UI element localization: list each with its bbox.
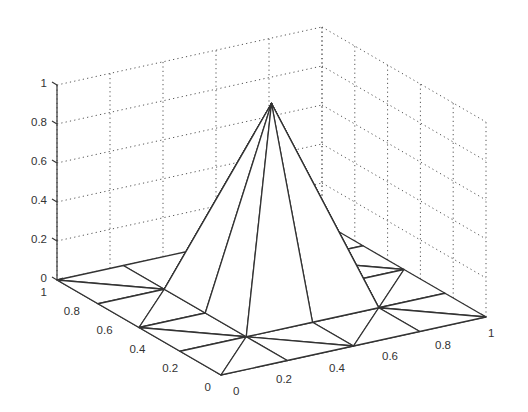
z-tick-label: 0.8 — [31, 116, 47, 128]
grid-line-z — [57, 27, 322, 85]
grid-line-z — [322, 66, 486, 161]
grid-line-z — [322, 105, 486, 200]
z-tick — [52, 121, 57, 124]
x-tick-label: 0.6 — [382, 350, 398, 362]
grid-line-z — [322, 27, 486, 122]
grid-line-z — [322, 144, 486, 239]
triangular-mesh — [57, 104, 486, 376]
y-tick-label: 0 — [205, 381, 211, 393]
surface-plot: 0000.20.20.20.40.40.40.60.60.60.80.80.81… — [0, 0, 528, 412]
z-tick-label: 0 — [41, 272, 47, 284]
z-tick-label: 1 — [41, 77, 47, 89]
z-tick — [52, 277, 57, 280]
x-tick-label: 0 — [233, 385, 239, 397]
z-tick — [52, 199, 57, 202]
x-tick-label: 0.4 — [329, 362, 346, 374]
x-tick-label: 1 — [488, 327, 494, 339]
z-tick-label: 0.6 — [31, 155, 47, 167]
z-tick-label: 0.4 — [31, 194, 48, 206]
y-tick-label: 0.8 — [64, 305, 80, 317]
z-tick — [52, 238, 57, 241]
y-tick-label: 0.6 — [97, 324, 113, 336]
y-tick-label: 1 — [41, 286, 47, 298]
grid-line-z — [57, 66, 322, 124]
y-tick-label: 0.4 — [129, 343, 146, 355]
z-tick — [52, 160, 57, 163]
z-tick — [52, 82, 57, 85]
y-tick-label: 0.2 — [162, 362, 178, 374]
x-tick-label: 0.2 — [276, 373, 292, 385]
x-tick-label: 0.8 — [435, 339, 451, 351]
z-tick-label: 0.2 — [31, 233, 47, 245]
